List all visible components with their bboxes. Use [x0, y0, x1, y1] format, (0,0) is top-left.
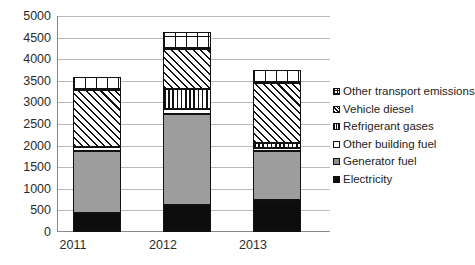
legend-label: Electricity — [343, 174, 392, 186]
y-tick-label: 2500 — [5, 118, 51, 131]
segment-electricity-2012 — [163, 205, 211, 232]
legend-item-vehicle-diesel: Vehicle diesel — [333, 101, 473, 119]
segment-vehicle-diesel-2013 — [253, 83, 301, 143]
segment-other-transport-2013 — [253, 70, 301, 83]
segment-electricity-2013 — [253, 200, 301, 232]
x-tick-label-2013: 2013 — [218, 238, 288, 252]
y-tick-label: 1500 — [5, 161, 51, 174]
segment-vehicle-diesel-2011 — [73, 90, 121, 147]
segment-generator-fuel-2012 — [163, 114, 211, 206]
segment-other-transport-2011 — [73, 77, 121, 91]
plot-area — [57, 16, 330, 232]
legend-label: Other building fuel — [343, 139, 436, 151]
segment-generator-fuel-2011 — [73, 151, 121, 213]
y-tick-label: 3000 — [5, 96, 51, 109]
y-tick-label: 4500 — [5, 32, 51, 45]
y-tick-label: 500 — [5, 204, 51, 217]
x-tick-label-2011: 2011 — [38, 238, 108, 252]
legend-swatch-icon — [333, 141, 340, 148]
segment-other-building-fuel-2013 — [253, 148, 301, 151]
segment-other-building-fuel-2011 — [73, 147, 121, 151]
segment-refrigerant-gases-2012 — [163, 89, 211, 108]
y-tick-label: 0 — [5, 226, 51, 239]
legend-label: Generator fuel — [343, 156, 417, 168]
y-tick-label: 1000 — [5, 183, 51, 196]
y-tick-label: 5000 — [5, 10, 51, 23]
segment-other-building-fuel-2012 — [163, 109, 211, 114]
legend-swatch-icon — [333, 106, 340, 113]
legend-swatch-icon — [333, 123, 340, 130]
legend-item-electricity: Electricity — [333, 171, 473, 189]
x-tick-label-2012: 2012 — [128, 238, 198, 252]
segment-other-transport-2012 — [163, 32, 211, 49]
segment-generator-fuel-2013 — [253, 151, 301, 200]
legend-label: Refrigerant gases — [343, 121, 434, 133]
legend-item-other-building-fuel: Other building fuel — [333, 136, 473, 154]
segment-vehicle-diesel-2012 — [163, 49, 211, 89]
legend-item-refrigerant-gases: Refrigerant gases — [333, 118, 473, 136]
y-tick-label: 4000 — [5, 53, 51, 66]
y-tick-label: 3500 — [5, 75, 51, 88]
legend-item-generator-fuel: Generator fuel — [333, 153, 473, 171]
legend-swatch-icon — [333, 158, 340, 165]
segment-refrigerant-gases-2013 — [253, 143, 301, 148]
gridline — [57, 16, 330, 17]
chart-legend: Other transport emissions Vehicle diesel… — [333, 83, 473, 188]
legend-label: Other transport emissions — [343, 86, 475, 98]
y-axis-line — [57, 16, 58, 232]
y-tick-label: 2000 — [5, 140, 51, 153]
legend-swatch-icon — [333, 88, 340, 95]
legend-label: Vehicle diesel — [343, 104, 413, 116]
legend-item-other-transport-emissions: Other transport emissions — [333, 83, 473, 101]
segment-electricity-2011 — [73, 213, 121, 232]
legend-swatch-icon — [333, 176, 340, 183]
